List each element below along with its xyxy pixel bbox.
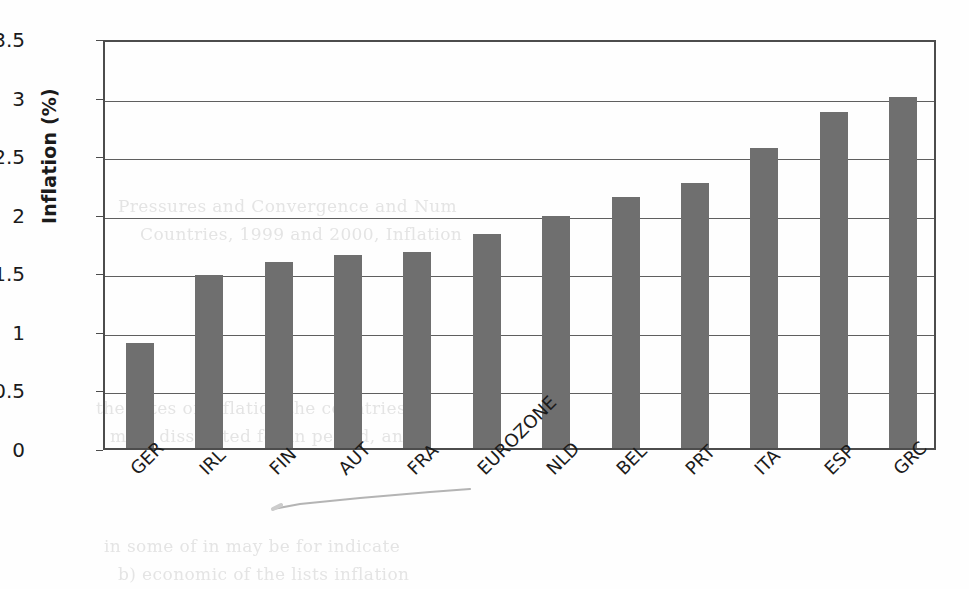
bar-esp[interactable] (820, 112, 848, 448)
y-axis-tick-label: 1.5 (0, 262, 25, 286)
y-axis-tick-mark (96, 216, 103, 217)
bar-grc[interactable] (889, 97, 917, 448)
y-axis-tick-mark (96, 333, 103, 334)
y-axis-tick-label: 2.5 (0, 145, 25, 169)
y-axis-tick-mark (96, 274, 103, 275)
ghost-text: b) economic of the lists inflation (118, 564, 409, 584)
y-axis-tick-mark (96, 157, 103, 158)
bar-irl[interactable] (195, 275, 223, 448)
bar-eurozone[interactable] (473, 234, 501, 448)
plot-area (103, 40, 936, 450)
bar-fra[interactable] (403, 252, 431, 448)
bar-ita[interactable] (750, 148, 778, 448)
y-axis-tick-label: 0 (0, 438, 25, 462)
y-axis-tick-mark (96, 40, 103, 41)
bar-prt[interactable] (681, 183, 709, 448)
y-axis-tick-label: 3 (0, 87, 25, 111)
y-axis-tick-label: 0.5 (0, 379, 25, 403)
y-axis-tick-mark (96, 450, 103, 451)
bar-aut[interactable] (334, 255, 362, 448)
inflation-bar-chart-figure: Pressures and Convergence and Num Countr… (0, 0, 969, 589)
y-axis-tick-mark (96, 391, 103, 392)
y-axis-tick-label: 3.5 (0, 28, 25, 52)
y-axis-tick-label: 1 (0, 321, 25, 345)
bar-ger[interactable] (126, 343, 154, 448)
ghost-text: in some of in may be for indicate (104, 536, 400, 556)
bar-series (105, 42, 934, 448)
y-axis-title: Inflation (%) (38, 61, 60, 251)
bar-bel[interactable] (612, 197, 640, 448)
y-axis-tick-mark (96, 99, 103, 100)
bar-fin[interactable] (265, 262, 293, 448)
y-axis-tick-label: 2 (0, 204, 25, 228)
